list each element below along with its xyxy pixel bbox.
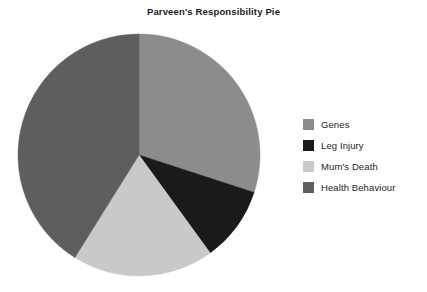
legend-item[interactable]: Leg Injury bbox=[303, 135, 427, 156]
legend-item-label: Mum's Death bbox=[321, 161, 378, 172]
chart-legend: GenesLeg InjuryMum's DeathHealth Behavio… bbox=[303, 114, 427, 198]
pie-chart-figure: Parveen's Responsibility Pie GenesLeg In… bbox=[0, 0, 427, 292]
legend-item-label: Genes bbox=[321, 119, 350, 130]
legend-item-label: Leg Injury bbox=[321, 140, 364, 151]
legend-item[interactable]: Health Behaviour bbox=[303, 177, 427, 198]
chart-title: Parveen's Responsibility Pie bbox=[0, 6, 427, 17]
legend-item[interactable]: Genes bbox=[303, 114, 427, 135]
pie-slice-group bbox=[18, 34, 260, 276]
legend-swatch-icon bbox=[303, 119, 314, 130]
pie-plot-area bbox=[0, 20, 290, 292]
legend-swatch-icon bbox=[303, 161, 314, 172]
legend-item-label: Health Behaviour bbox=[321, 182, 395, 193]
legend-swatch-icon bbox=[303, 182, 314, 193]
legend-item[interactable]: Mum's Death bbox=[303, 156, 427, 177]
legend-swatch-icon bbox=[303, 140, 314, 151]
pie-svg bbox=[0, 20, 290, 292]
